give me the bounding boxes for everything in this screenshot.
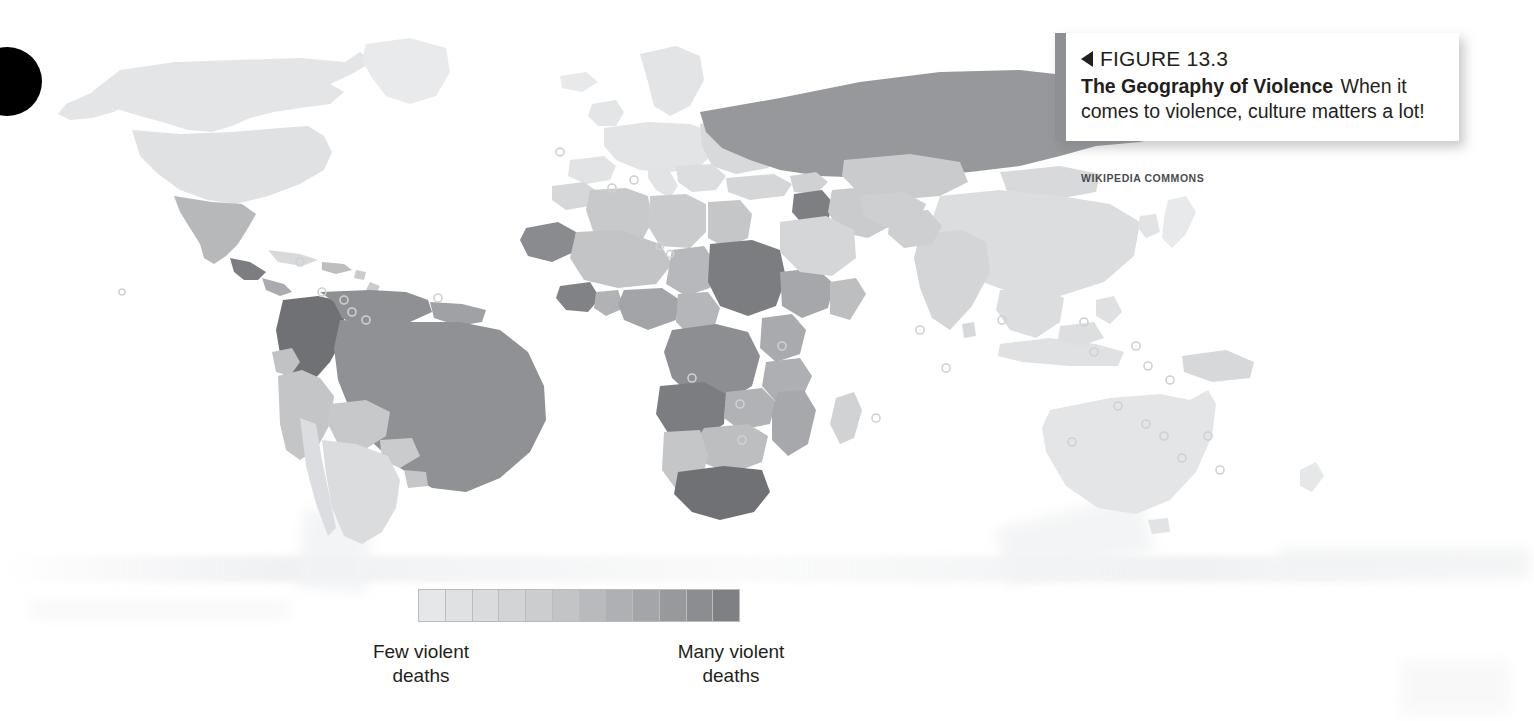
region-korea bbox=[1138, 214, 1160, 238]
legend-swatch bbox=[526, 590, 553, 621]
legend-swatch bbox=[419, 590, 446, 621]
region-united-states bbox=[132, 126, 332, 204]
caption-gap bbox=[1333, 75, 1340, 97]
figure-number-line: FIGURE 13.3 bbox=[1081, 46, 1444, 72]
region-sri-lanka bbox=[962, 322, 976, 338]
legend-label-low: Few violent deaths bbox=[336, 640, 506, 688]
region-greenland bbox=[362, 38, 450, 104]
region-ethiopia bbox=[780, 268, 834, 318]
legend-swatch bbox=[553, 590, 580, 621]
region-indonesia bbox=[998, 338, 1124, 366]
region-tasmania bbox=[1148, 518, 1170, 534]
region-oceania bbox=[1042, 350, 1324, 534]
scan-artifact-smudge bbox=[30, 600, 290, 620]
region-mozambique bbox=[772, 390, 816, 456]
legend-label-high: Many violent deaths bbox=[636, 640, 826, 688]
region-north-america bbox=[58, 38, 450, 308]
left-triangle-icon bbox=[1081, 51, 1093, 67]
legend-swatch bbox=[499, 590, 526, 621]
legend-swatch bbox=[580, 590, 607, 621]
scan-artifact-smudge bbox=[1400, 660, 1510, 715]
legend-swatch bbox=[473, 590, 500, 621]
region-zambia bbox=[724, 388, 776, 430]
region-philippines bbox=[1096, 296, 1122, 324]
figure-title: The Geography of Violence bbox=[1081, 75, 1333, 97]
region-japan bbox=[1162, 196, 1196, 248]
legend-swatch bbox=[606, 590, 633, 621]
legend-swatch bbox=[633, 590, 660, 621]
figure-caption-card: FIGURE 13.3 The Geography of Violence Wh… bbox=[1055, 33, 1459, 141]
region-south-africa bbox=[674, 466, 770, 520]
region-british-isles bbox=[588, 100, 624, 126]
figure-caption-body: The Geography of Violence When it comes … bbox=[1081, 74, 1444, 125]
region-uganda-kenya bbox=[760, 314, 806, 362]
figure-number: FIGURE 13.3 bbox=[1100, 47, 1228, 70]
region-libya bbox=[648, 194, 706, 248]
region-ivory-coast bbox=[556, 282, 600, 312]
region-madagascar bbox=[830, 392, 862, 444]
region-central-america bbox=[230, 258, 266, 280]
region-papua-new-guinea bbox=[1182, 350, 1254, 382]
region-uruguay bbox=[404, 470, 428, 488]
region-canada bbox=[92, 52, 372, 132]
legend-swatch bbox=[446, 590, 473, 621]
region-western-europe bbox=[604, 122, 716, 172]
figure-page: FIGURE 13.3 The Geography of Violence Wh… bbox=[0, 0, 1534, 721]
region-mexico bbox=[174, 196, 256, 264]
region-turkey bbox=[726, 174, 792, 200]
region-iberia bbox=[568, 156, 616, 184]
region-panama bbox=[262, 278, 292, 296]
region-new-zealand bbox=[1300, 462, 1324, 492]
legend-swatch bbox=[713, 590, 739, 621]
legend-swatch bbox=[660, 590, 687, 621]
region-cuba bbox=[268, 250, 318, 266]
region-australia bbox=[1042, 390, 1216, 514]
region-mauritania bbox=[520, 222, 576, 262]
map-legend-gradient bbox=[418, 589, 740, 622]
region-scandinavia bbox=[640, 46, 704, 116]
region-balkans bbox=[676, 164, 726, 192]
region-india bbox=[914, 230, 990, 330]
image-credit: WIKIPEDIA COMMONS bbox=[1081, 172, 1204, 184]
region-iceland bbox=[560, 72, 598, 92]
region-nigeria bbox=[618, 288, 680, 330]
region-southeast-asia bbox=[996, 286, 1064, 338]
region-hispaniola bbox=[322, 262, 352, 274]
region-somalia bbox=[830, 278, 866, 320]
legend-swatch bbox=[687, 590, 714, 621]
region-alaska bbox=[58, 90, 130, 120]
region-south-america bbox=[272, 290, 546, 544]
region-sudan bbox=[708, 240, 786, 316]
